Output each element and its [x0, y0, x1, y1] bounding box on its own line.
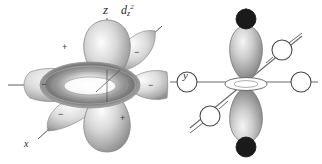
ligand-diagram-panel	[170, 0, 322, 164]
orbital-name-label: dz2	[121, 4, 134, 18]
ligand-right-y	[291, 72, 311, 92]
z-axis-label: z	[103, 3, 108, 16]
orbital-figure: + + − − − −	[0, 0, 322, 164]
x-axis-label: x	[24, 139, 28, 149]
sign-top-z: +	[62, 43, 67, 52]
orbital-superscript: 2	[130, 3, 134, 11]
ligand-orbital-top-lobe	[230, 26, 263, 82]
sign-left-y: −	[41, 80, 46, 89]
torus-ring	[40, 62, 140, 108]
ligand-top-z	[236, 9, 256, 29]
ligand-svg	[170, 0, 322, 164]
y-axis-label: y	[183, 70, 188, 81]
ligand-bottom-z	[236, 137, 256, 157]
sign-lower-left-x: −	[58, 110, 63, 119]
sign-bottom-z: +	[120, 114, 125, 123]
ligand-orbital-collar	[225, 78, 267, 91]
ligand-orbital-bottom-lobe	[230, 86, 263, 142]
sign-right-y: −	[148, 81, 153, 90]
sign-upper-right-x: −	[134, 48, 139, 57]
